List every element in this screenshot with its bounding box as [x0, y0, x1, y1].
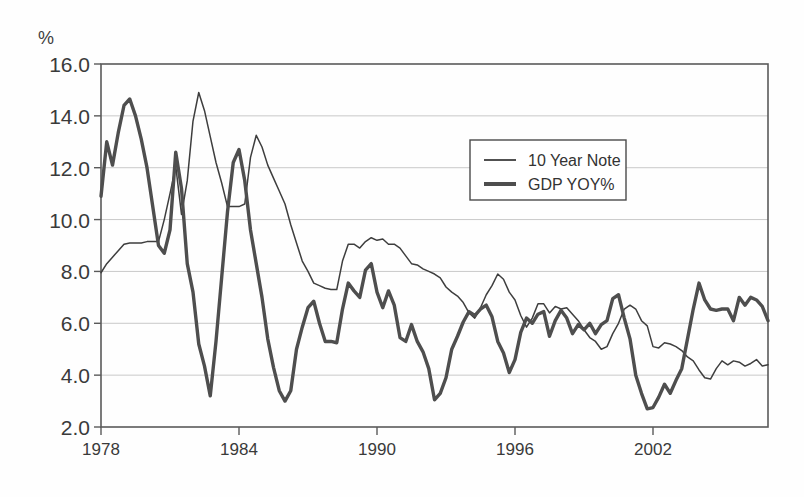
- y-tick-label-4.0: 4.0: [61, 364, 90, 387]
- x-tick-label-2002: 2002: [634, 440, 672, 459]
- chart-container: % 16.014.012.010.08.06.04.02.0 197819841…: [0, 0, 804, 497]
- y-tick-label-10.0: 10.0: [49, 209, 90, 232]
- y-tick-label-12.0: 12.0: [49, 157, 90, 180]
- x-tick-label-1978: 1978: [82, 440, 120, 459]
- y-tick-label-14.0: 14.0: [49, 105, 90, 128]
- chart-legend: 10 Year Note GDP YOY%: [470, 140, 626, 200]
- x-tick-label-1990: 1990: [358, 440, 396, 459]
- y-tick-label-16.0: 16.0: [49, 53, 90, 76]
- x-tick-label-1984: 1984: [220, 440, 258, 459]
- x-tick-label-1996: 1996: [496, 440, 534, 459]
- y-tick-label-2.0: 2.0: [61, 416, 90, 439]
- y-axis-unit-label: %: [38, 28, 54, 48]
- legend-label-10-year-note: 10 Year Note: [528, 152, 621, 169]
- economic-rates-line-chart: % 16.014.012.010.08.06.04.02.0 197819841…: [0, 0, 804, 497]
- y-tick-label-6.0: 6.0: [61, 312, 90, 335]
- legend-label-gdp-yoy: GDP YOY%: [528, 176, 615, 193]
- y-tick-label-8.0: 8.0: [61, 260, 90, 283]
